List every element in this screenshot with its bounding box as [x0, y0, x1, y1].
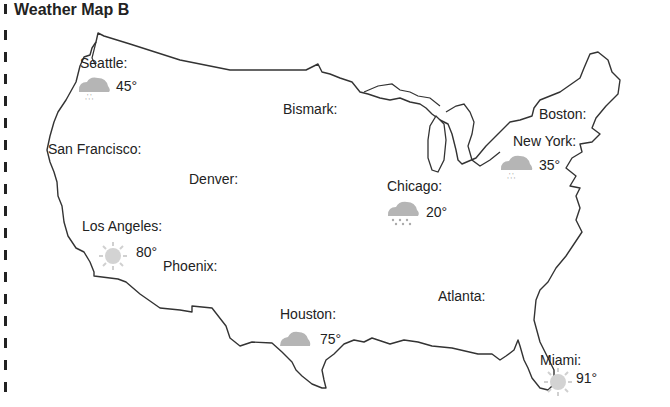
lake-superior-outline — [364, 84, 440, 106]
lake-michigan — [428, 116, 446, 172]
temp-los-angeles: 80° — [136, 244, 157, 260]
city-label-san-francisco: San Francisco: — [48, 141, 141, 157]
rain-cloud-icon: ,',', — [76, 74, 112, 100]
temp-chicago: 20° — [426, 204, 447, 220]
sun-icon — [97, 240, 129, 272]
city-label-seattle: Seattle: — [80, 55, 127, 71]
sun-icon — [542, 366, 574, 398]
city-label-los-angeles: Los Angeles: — [82, 218, 162, 234]
temp-miami: 91° — [576, 370, 597, 386]
city-label-chicago: Chicago: — [387, 178, 442, 194]
michigan-outline — [446, 104, 500, 166]
city-label-denver: Denver: — [189, 171, 238, 187]
rain-cloud-icon: ,',', — [499, 153, 535, 179]
weather-map-worksheet: Weather Map B Seattle: ,',', 45° San Fra… — [0, 0, 670, 407]
svg-text:,',',: ,',', — [85, 93, 94, 100]
temp-new-york: 35° — [539, 157, 560, 173]
temp-seattle: 45° — [116, 78, 137, 94]
svg-text:,',',: ,',', — [507, 172, 516, 179]
city-label-boston: Boston: — [539, 106, 586, 122]
city-label-new-york: New York: — [513, 133, 576, 149]
city-label-atlanta: Atlanta: — [438, 288, 485, 304]
snow-cloud-icon — [386, 199, 422, 227]
city-label-houston: Houston: — [280, 306, 336, 322]
city-label-bismark: Bismark: — [283, 101, 337, 117]
city-label-phoenix: Phoenix: — [163, 258, 217, 274]
cloud-icon — [278, 329, 312, 349]
temp-houston: 75° — [320, 331, 341, 347]
